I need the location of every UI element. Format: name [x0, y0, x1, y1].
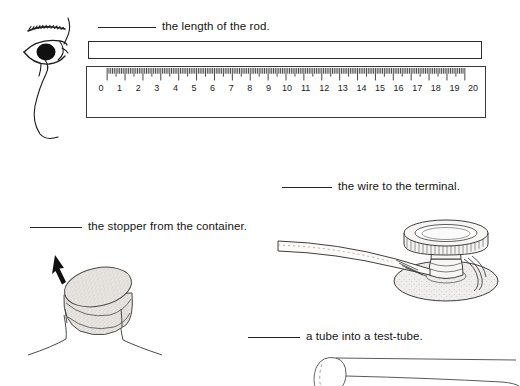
ruler-label-16: 16	[394, 83, 404, 93]
pull-arrow	[52, 255, 66, 285]
eye-illustration	[8, 8, 88, 140]
ruler-label-17: 17	[412, 83, 422, 93]
ruler-label-9: 9	[266, 83, 271, 93]
ruler-label-14: 14	[356, 83, 366, 93]
blank-line-stopper[interactable]	[30, 227, 82, 228]
stopper-illustration	[22, 243, 172, 383]
ruler-label-3: 3	[154, 83, 159, 93]
ruler-label-15: 15	[375, 83, 385, 93]
ruler-label-1: 1	[117, 83, 122, 93]
ruler-label-2: 2	[136, 83, 141, 93]
ruler-label-4: 4	[173, 83, 178, 93]
ruler-label-5: 5	[191, 83, 196, 93]
ruler-label-11: 11	[301, 83, 310, 93]
prompt-wire: the wire to the terminal.	[282, 180, 460, 192]
prompt-text-test-tube: a tube into a test-tube.	[306, 330, 423, 342]
ruler-number-labels: 01234567891011121314151617181920	[87, 67, 485, 117]
ruler-label-7: 7	[229, 83, 234, 93]
ruler-label-12: 12	[319, 83, 329, 93]
prompt-text-stopper: the stopper from the container.	[88, 220, 247, 232]
prompt-text-rod-length: the length of the rod.	[162, 20, 270, 32]
ruler-label-18: 18	[431, 83, 441, 93]
rod-shape	[88, 41, 482, 59]
prompt-stopper: the stopper from the container.	[30, 220, 247, 232]
blank-line-wire[interactable]	[282, 187, 332, 188]
ruler-label-19: 19	[449, 83, 459, 93]
ruler-label-0: 0	[98, 83, 103, 93]
ruler-label-20: 20	[468, 83, 478, 93]
blank-line-rod-length[interactable]	[98, 27, 156, 28]
ruler-label-6: 6	[210, 83, 215, 93]
ruler-label-13: 13	[338, 83, 348, 93]
ruler-label-10: 10	[282, 83, 292, 93]
ruler-label-8: 8	[247, 83, 252, 93]
ruler: 01234567891011121314151617181920	[86, 66, 486, 118]
prompt-test-tube: a tube into a test-tube.	[248, 330, 423, 342]
prompt-rod-length: the length of the rod.	[98, 20, 270, 32]
test-tube-illustration	[288, 352, 520, 386]
blank-line-test-tube[interactable]	[248, 337, 300, 338]
prompt-text-wire: the wire to the terminal.	[338, 180, 460, 192]
terminal-illustration	[278, 203, 520, 318]
